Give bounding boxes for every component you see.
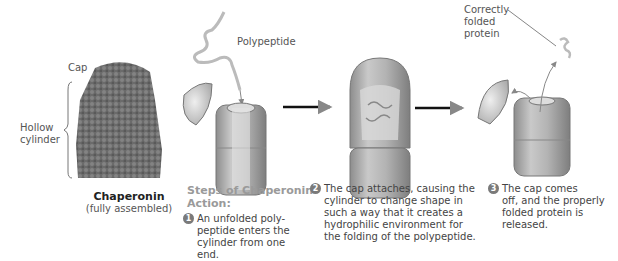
step-1-line: cylinder from one end. — [197, 237, 303, 261]
step2-illustration — [350, 58, 410, 198]
step-3-line: off, and the properly — [502, 195, 605, 207]
cap-label: Cap — [68, 62, 87, 74]
step-number-1: 1 — [183, 213, 194, 224]
step-3-line: released. — [502, 219, 605, 231]
step-2-line: such a way that it creates a — [324, 207, 476, 219]
folded-protein-label-line1: Correctly — [464, 4, 509, 16]
step-1-line: An unfolded poly- — [197, 213, 303, 225]
chaperonin-model — [76, 62, 162, 178]
bracket — [64, 82, 72, 178]
step-1-line: peptide enters the — [197, 225, 303, 237]
step-1-text: An unfolded poly- peptide enters the cyl… — [197, 213, 303, 261]
step-number-2: 2 — [310, 183, 321, 194]
steps-heading: Steps of Chaperonin Action: — [187, 184, 317, 210]
step-2-line: hydrophilic environment for — [324, 219, 476, 231]
chaperonin-subtitle: (fully assembled) — [74, 203, 184, 214]
step-3-line: The cap comes — [502, 183, 605, 195]
folded-protein-label-line3: protein — [464, 28, 509, 40]
step-3-line: folded protein is — [502, 207, 605, 219]
hollow-cylinder-label-line2: cylinder — [20, 134, 60, 146]
steps-heading-line1: Steps of Chaperonin — [187, 184, 317, 197]
step-1: 1 An unfolded poly- peptide enters the c… — [183, 213, 303, 253]
step-2-line: cylinder to change shape in — [324, 195, 476, 207]
step-2-line: The cap attaches, causing the — [324, 183, 476, 195]
step-number-3: 3 — [488, 183, 499, 194]
step-2: 2 The cap attaches, causing the cylinder… — [310, 183, 485, 247]
step-3: 3 The cap comes off, and the properly fo… — [488, 183, 613, 235]
hollow-cylinder-label: Hollow cylinder — [20, 122, 60, 146]
hollow-cylinder-label-line1: Hollow — [20, 122, 60, 134]
step-2-line: the folding of the polypeptide. — [324, 231, 476, 243]
polypeptide-label: Polypeptide — [237, 36, 296, 47]
folded-protein-label-line2: folded — [464, 16, 509, 28]
step-2-text: The cap attaches, causing the cylinder t… — [324, 183, 476, 243]
chaperonin-title: Chaperonin — [74, 190, 184, 203]
step-3-text: The cap comes off, and the properly fold… — [502, 183, 605, 231]
steps-heading-line2: Action: — [187, 197, 317, 210]
folded-protein-label: Correctly folded protein — [464, 4, 509, 40]
